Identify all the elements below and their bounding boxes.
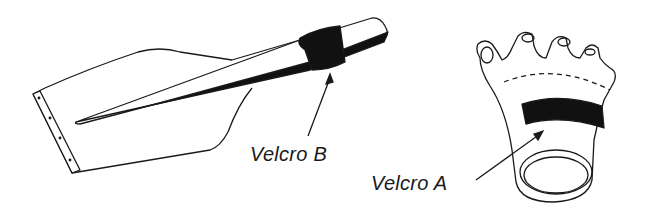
glove-drawing	[477, 32, 615, 202]
paddle-drawing	[33, 18, 388, 173]
velcro-b-label: Velcro B	[250, 143, 327, 166]
illustration	[0, 0, 672, 224]
velcro-b-arrow	[308, 74, 333, 136]
velcro-a-label: Velcro A	[371, 172, 448, 195]
